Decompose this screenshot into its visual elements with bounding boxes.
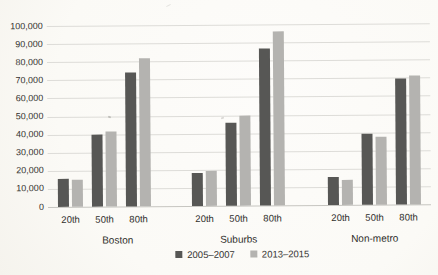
bar-chart: 010,00020,00030,00040,00050,00060,00070,… (0, 0, 438, 275)
y-tick-label: 80,000 (0, 57, 43, 68)
bar (273, 31, 285, 205)
category-label: 80th (119, 213, 159, 224)
bar (72, 180, 83, 207)
y-tick-label: 30,000 (0, 147, 44, 158)
y-tick-label: 60,000 (0, 93, 43, 104)
y-tick-label: 50,000 (0, 111, 43, 122)
scanned-chart-page: 010,00020,00030,00040,00050,00060,00070,… (0, 0, 438, 275)
legend-label: 2005–2007 (187, 248, 235, 259)
category-label: 80th (253, 212, 293, 223)
group-label: Suburbs (204, 233, 274, 245)
bar (125, 72, 137, 206)
bar (58, 179, 69, 207)
legend-swatch (250, 250, 257, 257)
bar (105, 132, 117, 207)
category-label: 80th (389, 211, 429, 222)
bar (328, 177, 339, 205)
legend-swatch (175, 251, 182, 258)
bar (409, 75, 421, 204)
y-tick-label: 0 (0, 202, 44, 213)
bar (225, 123, 237, 206)
group-label: Boston (83, 234, 153, 246)
bar (395, 78, 407, 204)
bar (259, 48, 271, 205)
legend: 2005–20072013–2015 (0, 246, 438, 261)
bar (139, 58, 151, 206)
bar (376, 137, 387, 205)
y-tick-label: 20,000 (0, 165, 44, 176)
legend-item: 2013–2015 (250, 248, 310, 259)
legend-item: 2005–2007 (175, 248, 235, 259)
bar (91, 135, 103, 207)
bar (192, 173, 203, 206)
bar (342, 180, 353, 205)
group-label: Non-metro (340, 232, 410, 244)
bar (206, 171, 217, 206)
plot-area (47, 23, 431, 207)
y-tick-label: 10,000 (0, 183, 44, 194)
bar (239, 116, 251, 206)
y-tick-label: 40,000 (0, 129, 44, 140)
y-tick-label: 90,000 (0, 39, 43, 50)
bar (361, 134, 372, 205)
y-tick-label: 70,000 (0, 75, 43, 86)
legend-label: 2013–2015 (262, 248, 310, 259)
y-tick-label: 100,000 (0, 21, 43, 32)
